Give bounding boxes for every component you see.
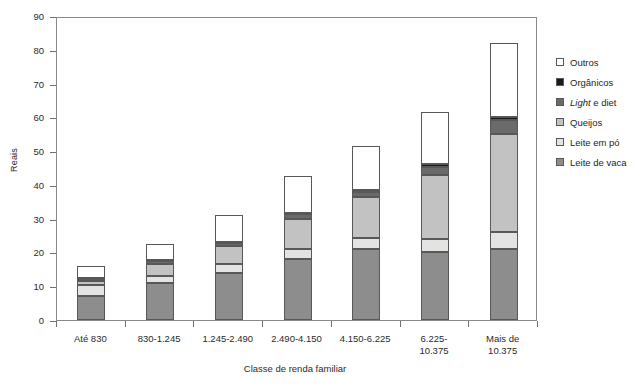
bar-segment-queijos (146, 264, 174, 276)
legend-item-1[interactable]: Outros (556, 52, 643, 72)
legend-item-3[interactable]: Light e diet (556, 92, 643, 112)
bar-3 (215, 16, 243, 320)
x-axis-tick-mark (537, 321, 538, 327)
y-axis-tick-label: 30 (4, 215, 44, 225)
bar-segment-outros (284, 176, 312, 212)
bar-segment-leite-em-p- (77, 285, 105, 296)
y-axis: 0102030405060708090 (0, 0, 56, 322)
bar-segment-org-nicos (490, 117, 518, 120)
x-axis-tick-mark (468, 321, 469, 327)
bar-segment-light-e-diet (215, 243, 243, 246)
x-axis-tick-mark (262, 321, 263, 327)
stacked-bar-chart: Reais 0102030405060708090 Classe de rend… (0, 0, 643, 388)
bar-segment-light-e-diet (146, 261, 174, 263)
bar-4 (284, 16, 312, 320)
legend-item-label: Orgânicos (570, 77, 613, 88)
bar-segment-outros (215, 215, 243, 242)
bar-segment-leite-de-vaca (215, 273, 243, 320)
legend-item-label: Outros (570, 57, 599, 68)
bar-segment-outros (146, 244, 174, 260)
bar-segment-leite-de-vaca (490, 249, 518, 320)
x-axis-title: Classe de renda familiar (55, 363, 535, 374)
bar-segment-outros (77, 266, 105, 278)
bar-segment-leite-de-vaca (284, 259, 312, 320)
legend-item-4[interactable]: Queijos (556, 112, 643, 132)
bar-segment-queijos (284, 219, 312, 249)
legend: OutrosOrgânicosLight e dietQueijosLeite … (556, 52, 643, 172)
legend-swatch-light-e-diet (556, 98, 564, 106)
legend-swatch-organicos (556, 78, 564, 86)
bar-7 (490, 16, 518, 320)
y-axis-tick-label: 40 (4, 181, 44, 191)
x-axis-tick-mark (400, 321, 401, 327)
legend-item-label: Light e diet (570, 97, 617, 108)
legend-item-5[interactable]: Leite em pó (556, 132, 643, 152)
bar-segment-leite-em-p- (215, 264, 243, 272)
bar-segment-leite-em-p- (490, 232, 518, 249)
bar-5 (352, 16, 380, 320)
x-axis-tick-mark (193, 321, 194, 327)
bar-segment-queijos (215, 246, 243, 265)
bar-segment-light-e-diet (284, 214, 312, 218)
y-axis-tick-label: 20 (4, 249, 44, 259)
bar-segment-light-e-diet (490, 120, 518, 134)
legend-swatch-queijos (556, 118, 564, 126)
y-axis-tick-label: 60 (4, 114, 44, 124)
bar-segment-queijos (421, 175, 449, 239)
bar-2 (146, 16, 174, 320)
legend-item-2[interactable]: Orgânicos (556, 72, 643, 92)
plot-area (56, 17, 537, 321)
bar-segment-queijos (352, 197, 380, 239)
bar-segment-leite-em-p- (284, 249, 312, 259)
bar-segment-light-e-diet (352, 192, 380, 197)
bar-segment-light-e-diet (421, 167, 449, 175)
legend-item-6[interactable]: Leite de vaca (556, 152, 643, 172)
legend-swatch-leite-de-vaca (556, 158, 564, 166)
bar-segment-leite-em-p- (146, 276, 174, 283)
legend-swatch-outros (556, 58, 564, 66)
bar-segment-queijos (77, 281, 105, 285)
x-axis-tick-label-7: Mais de 10.375 (460, 333, 546, 356)
y-axis-tick-label: 0 (4, 316, 44, 326)
y-axis-tick-label: 50 (4, 147, 44, 157)
bar-6 (421, 16, 449, 320)
bar-segment-leite-de-vaca (146, 283, 174, 320)
y-axis-tick-label: 90 (4, 12, 44, 22)
y-axis-tick-label: 10 (4, 282, 44, 292)
x-axis-tick-mark (331, 321, 332, 327)
bar-segment-leite-de-vaca (77, 296, 105, 320)
legend-item-label: Leite em pó (570, 137, 620, 148)
bar-segment-leite-de-vaca (421, 252, 449, 320)
x-axis-tick-mark (56, 321, 57, 327)
legend-item-label: Leite de vaca (570, 157, 627, 168)
bar-segment-outros (352, 146, 380, 190)
y-axis-tick-label: 80 (4, 46, 44, 56)
x-axis-tick-mark (125, 321, 126, 327)
bar-segment-outros (490, 43, 518, 117)
bar-segment-leite-de-vaca (352, 249, 380, 320)
bar-segment-queijos (490, 134, 518, 232)
bar-segment-leite-em-p- (421, 239, 449, 253)
legend-swatch-leite-em-po (556, 138, 564, 146)
legend-item-label: Queijos (570, 117, 602, 128)
y-axis-tick-label: 70 (4, 80, 44, 90)
bar-segment-leite-em-p- (352, 238, 380, 249)
bar-1 (77, 16, 105, 320)
bar-segment-outros (421, 112, 449, 163)
bar-segment-org-nicos (421, 164, 449, 167)
